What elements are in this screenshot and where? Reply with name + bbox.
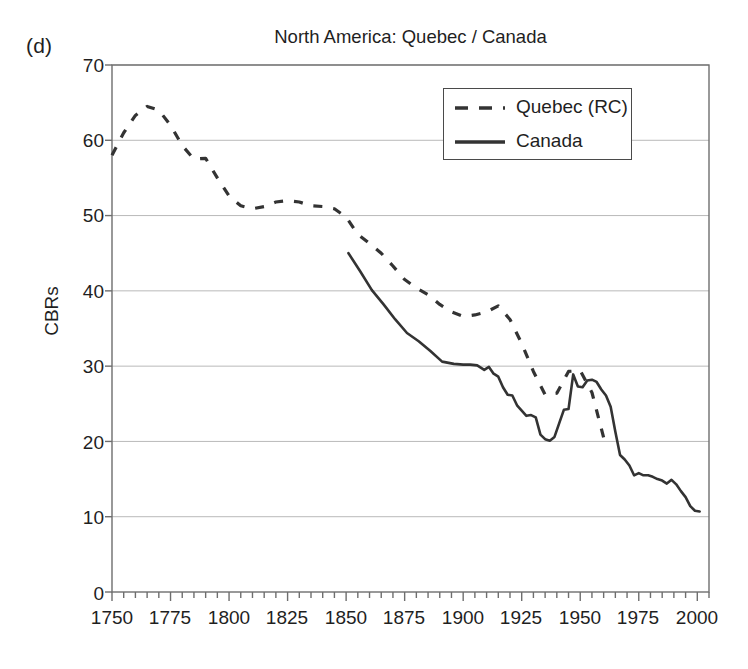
legend-entry-canada: Canada (444, 123, 633, 159)
chart-figure: (d) North America: Quebec / Canada CBRs … (0, 0, 748, 669)
legend-swatch-dashed-icon (454, 106, 506, 110)
legend-swatch-solid-icon (454, 140, 506, 144)
legend-label-quebec: Quebec (RC) (516, 96, 628, 118)
legend-label-canada: Canada (516, 130, 583, 152)
legend: Quebec (RC) Canada (443, 88, 632, 160)
plot-area (0, 0, 748, 669)
legend-entry-quebec: Quebec (RC) (444, 89, 633, 125)
series-line-canada (348, 253, 699, 511)
